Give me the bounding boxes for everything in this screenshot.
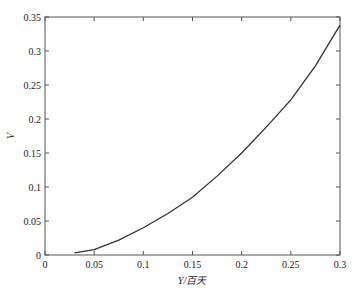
x-axis-ticks: 00.050.10.150.20.250.3 (43, 17, 347, 270)
data-line (75, 25, 341, 253)
y-axis-label: V (5, 131, 16, 139)
x-axis-label: Y/百天 (178, 275, 207, 286)
x-tick-label: 0.3 (334, 259, 347, 270)
y-tick-label: 0 (36, 250, 41, 261)
chart-svg: 00.050.10.150.20.250.30.35 00.050.10.150… (0, 0, 354, 293)
x-tick-label: 0.05 (85, 259, 103, 270)
y-tick-label: 0.1 (29, 182, 42, 193)
plot-frame (45, 17, 340, 255)
y-tick-label: 0.25 (24, 80, 42, 91)
y-tick-label: 0.3 (29, 46, 42, 57)
x-tick-label: 0.25 (282, 259, 300, 270)
y-tick-label: 0.05 (24, 216, 42, 227)
y-tick-label: 0.35 (24, 12, 42, 23)
y-axis-ticks: 00.050.10.150.20.250.30.35 (24, 12, 341, 261)
x-tick-label: 0.2 (235, 259, 248, 270)
x-tick-label: 0.15 (184, 259, 202, 270)
y-tick-label: 0.2 (29, 114, 42, 125)
x-tick-label: 0 (43, 259, 48, 270)
x-tick-label: 0.1 (137, 259, 150, 270)
y-tick-label: 0.15 (24, 148, 42, 159)
